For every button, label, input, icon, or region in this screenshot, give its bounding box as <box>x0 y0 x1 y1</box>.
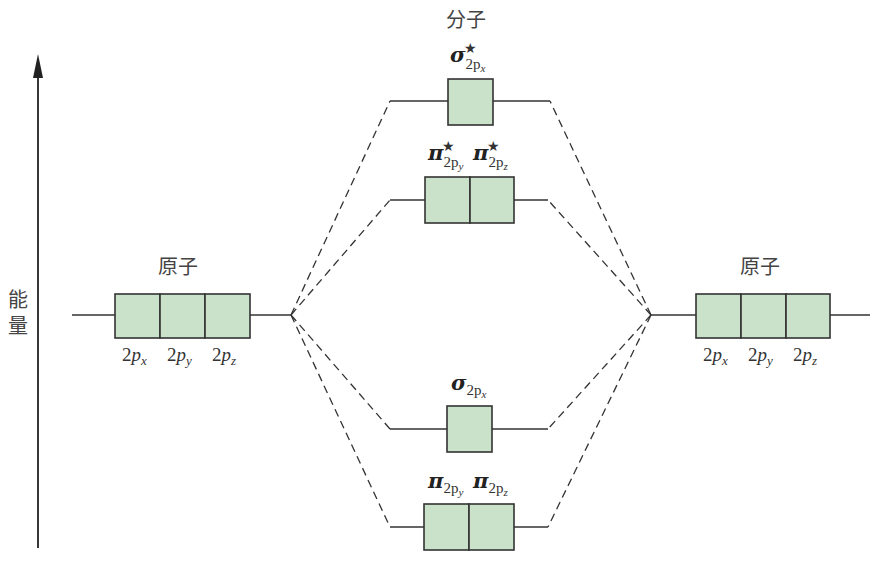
arrow-up-icon <box>33 54 43 78</box>
dash-left-sigma <box>291 315 390 429</box>
label-pi-2pz: π2pz <box>472 468 508 498</box>
orbital-box <box>448 79 493 125</box>
left-atom-orbitals: 原子 2px 2py 2pz <box>72 255 291 368</box>
right-atom-title: 原子 <box>740 255 780 279</box>
dash-right-sigma <box>548 315 651 429</box>
dash-left-pi <box>291 315 390 527</box>
orbital-box-pi-2py <box>424 504 469 550</box>
mo-sigma-star-2px: σ★2px <box>390 41 550 125</box>
right-label-2px: 2px <box>703 344 728 368</box>
mo-pi-2p: π2py π2pz <box>390 468 548 550</box>
orbital-box-pi-star-2py <box>425 177 470 223</box>
mo-pi-star-2p: π★2py π★2pz <box>390 139 548 223</box>
label-pi-2py: π2py <box>427 468 463 498</box>
right-orbital-box-2pz <box>786 294 830 338</box>
right-label-2py: 2py <box>748 344 773 368</box>
left-orbital-box-2pz <box>205 294 250 338</box>
mo-sigma-2px: σ2px <box>390 370 548 452</box>
energy-label-line1: 能 <box>8 288 28 312</box>
correlation-lines <box>291 101 651 527</box>
dash-left-sigma-star <box>291 101 390 315</box>
left-atom-title: 原子 <box>158 255 198 279</box>
label-sigma-star-2px: σ★2px <box>450 41 485 74</box>
right-label-2pz: 2pz <box>793 344 817 368</box>
orbital-box-pi-2pz <box>469 504 514 550</box>
orbital-box <box>447 406 492 452</box>
energy-label-line2: 量 <box>8 314 28 338</box>
left-label-2py: 2py <box>167 344 192 368</box>
dash-right-sigma-star <box>550 101 651 315</box>
left-label-2pz: 2pz <box>212 344 236 368</box>
dash-left-pi-star <box>291 200 390 315</box>
label-pi-star-2py: π★2py <box>427 139 463 172</box>
left-label-2px: 2px <box>122 344 147 368</box>
energy-axis: 能 量 <box>8 54 43 548</box>
right-orbital-box-2py <box>741 294 786 338</box>
right-atom-orbitals: 原子 2px 2py 2pz <box>651 255 870 368</box>
right-orbital-box-2px <box>696 294 741 338</box>
dash-right-pi-star <box>548 200 651 315</box>
left-orbital-box-2px <box>115 294 160 338</box>
mo-diagram: 能 量 分子 原子 2px 2py 2pz 原子 2px 2py 2pz <box>0 0 885 572</box>
label-pi-star-2pz: π★2pz <box>472 139 508 172</box>
label-sigma-2px: σ2px <box>451 370 486 400</box>
orbital-box-pi-star-2pz <box>470 177 514 223</box>
dash-right-pi <box>548 315 651 527</box>
molecule-title: 分子 <box>446 8 486 32</box>
left-orbital-box-2py <box>160 294 205 338</box>
